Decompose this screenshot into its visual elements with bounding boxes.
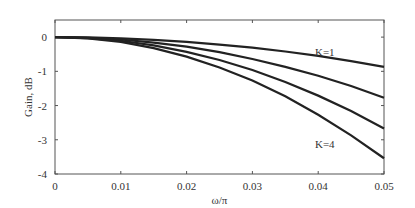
gain-chart: 00.010.020.030.040.050-1-2-3-4ω/πGain, d… — [0, 0, 415, 208]
annotation: K=1 — [315, 46, 335, 58]
plot-frame — [55, 20, 384, 174]
x-tick-label: 0.01 — [111, 180, 130, 192]
y-axis-label: Gain, dB — [22, 77, 34, 117]
x-tick-label: 0.02 — [177, 180, 196, 192]
x-tick-label: 0.05 — [374, 180, 394, 192]
series-line — [55, 37, 384, 158]
x-axis-label: ω/π — [212, 194, 228, 206]
annotation: K=4 — [315, 138, 335, 150]
y-tick-label: -4 — [38, 168, 48, 180]
y-tick-label: -1 — [38, 65, 47, 77]
x-tick-label: 0.04 — [309, 180, 329, 192]
x-tick-label: 0 — [52, 180, 58, 192]
y-tick-label: -2 — [38, 100, 47, 112]
x-tick-label: 0.03 — [243, 180, 263, 192]
y-tick-label: 0 — [42, 31, 48, 43]
y-tick-label: -3 — [38, 134, 48, 146]
series-line — [55, 37, 384, 128]
